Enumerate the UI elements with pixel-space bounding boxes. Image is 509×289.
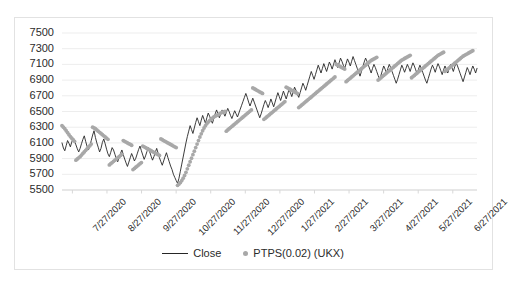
gridlines — [62, 33, 477, 190]
psar-dot — [192, 149, 196, 153]
psar-dot — [283, 100, 287, 104]
psar-dot — [343, 67, 347, 71]
y-axis-tick-label: 5500 — [8, 184, 54, 195]
psar-dot — [375, 55, 379, 59]
psar-dot — [174, 146, 178, 150]
y-axis-tick-label: 6100 — [8, 137, 54, 148]
chart-legend: Close PTPS(0.02) (UKX) — [0, 247, 506, 259]
psar-dot — [194, 146, 198, 150]
line-marker-icon — [162, 253, 188, 254]
psar-dot-series — [60, 49, 475, 187]
psar-dot — [120, 152, 124, 156]
y-axis-tick-label: 5700 — [8, 168, 54, 179]
psar-dot — [191, 153, 195, 157]
psar-dot — [73, 139, 77, 143]
psar-dot — [295, 92, 299, 96]
psar-dot — [184, 170, 188, 174]
legend-item-psar[interactable]: PTPS(0.02) (UKX) — [243, 247, 343, 259]
psar-dot — [261, 92, 265, 96]
y-axis-tick-label: 7300 — [8, 43, 54, 54]
psar-dot — [106, 137, 110, 141]
psar-dot — [408, 53, 412, 57]
psar-dot — [188, 160, 192, 164]
psar-dot — [250, 108, 254, 112]
psar-dot — [158, 154, 162, 158]
psar-dot — [130, 143, 134, 147]
y-axis-tick-label: 5900 — [8, 153, 54, 164]
psar-dot — [139, 161, 143, 165]
psar-dot — [333, 75, 337, 79]
x-axis-ticks — [62, 190, 477, 194]
psar-dot — [190, 156, 194, 160]
psar-dot — [187, 163, 191, 167]
psar-dot — [195, 142, 199, 146]
y-axis-tick-label: 7500 — [8, 27, 54, 38]
psar-dot — [185, 167, 189, 171]
psar-dot — [442, 50, 446, 54]
psar-dot — [89, 142, 93, 146]
psar-dot — [197, 139, 201, 143]
dot-marker-icon — [243, 251, 248, 256]
psar-dot — [223, 110, 227, 114]
y-axis-tick-label: 6500 — [8, 106, 54, 117]
y-axis-tick-label: 6300 — [8, 121, 54, 132]
y-axis-tick-label: 6900 — [8, 74, 54, 85]
legend-label-close: Close — [193, 247, 221, 259]
y-axis-tick-label: 6700 — [8, 90, 54, 101]
legend-label-psar: PTPS(0.02) (UKX) — [253, 247, 343, 259]
legend-item-close[interactable]: Close — [162, 247, 221, 259]
psar-dot — [471, 49, 475, 53]
y-axis-tick-label: 7100 — [8, 58, 54, 69]
